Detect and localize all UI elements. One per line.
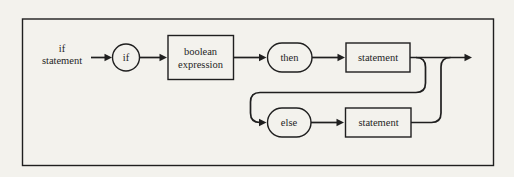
entry-label-line2: statement: [42, 55, 82, 66]
diagram-canvas: if statement if boolean expression then …: [0, 0, 514, 177]
syntax-diagram-if-statement: if statement if boolean expression then …: [0, 0, 514, 177]
entry-label-line1: if: [59, 43, 66, 54]
boolean-expression-label-line2: expression: [178, 59, 224, 70]
statement-bottom-label: statement: [358, 117, 398, 128]
if-terminal-label: if: [123, 52, 130, 63]
boolean-expression-label-line1: boolean: [184, 46, 218, 57]
paper-background: [0, 0, 514, 177]
then-terminal-label: then: [280, 52, 299, 63]
statement-top-label: statement: [358, 52, 398, 63]
else-terminal-label: else: [281, 117, 298, 128]
